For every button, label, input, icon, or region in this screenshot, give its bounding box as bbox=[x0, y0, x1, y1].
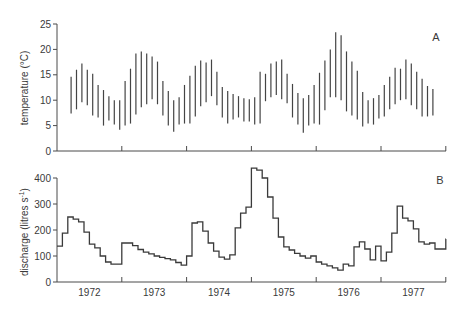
temperature-x-ticks bbox=[122, 146, 446, 151]
x-tick-label: 1977 bbox=[402, 287, 425, 298]
discharge-panel: 0100200300400 197219731974197519761977 d… bbox=[18, 168, 446, 298]
y-tick-label: 100 bbox=[34, 251, 51, 262]
temperature-y-ticks: 0510152025 bbox=[40, 19, 57, 157]
x-tick-label: 1972 bbox=[78, 287, 101, 298]
y-tick-label: 0 bbox=[45, 146, 51, 157]
y-tick-label: 15 bbox=[40, 69, 52, 80]
y-tick-label: 10 bbox=[40, 95, 52, 106]
temperature-axis-title: temperature (°C) bbox=[19, 51, 30, 126]
discharge-step-line bbox=[57, 168, 446, 270]
x-tick-label: 1974 bbox=[208, 287, 231, 298]
temperature-panel: 0510152025 temperature (°C) A bbox=[19, 19, 446, 157]
panel-b-label: B bbox=[436, 174, 443, 186]
y-tick-label: 20 bbox=[40, 44, 52, 55]
discharge-x-ticks: 197219731974197519761977 bbox=[78, 277, 446, 298]
y-tick-label: 5 bbox=[45, 120, 51, 131]
temperature-range-bars bbox=[71, 32, 433, 133]
panel-a-label: A bbox=[432, 31, 440, 43]
x-tick-label: 1973 bbox=[143, 287, 166, 298]
y-tick-label: 0 bbox=[45, 277, 51, 288]
y-tick-label: 200 bbox=[34, 225, 51, 236]
y-tick-label: 25 bbox=[40, 19, 52, 30]
discharge-y-ticks: 0100200300400 bbox=[34, 173, 57, 288]
x-tick-label: 1975 bbox=[273, 287, 296, 298]
x-tick-label: 1976 bbox=[337, 287, 360, 298]
figure: 0510152025 temperature (°C) A 0100200300… bbox=[0, 0, 466, 310]
y-tick-label: 400 bbox=[34, 173, 51, 184]
y-tick-label: 300 bbox=[34, 199, 51, 210]
discharge-axis-title: discharge (litres s-1) bbox=[18, 188, 30, 276]
